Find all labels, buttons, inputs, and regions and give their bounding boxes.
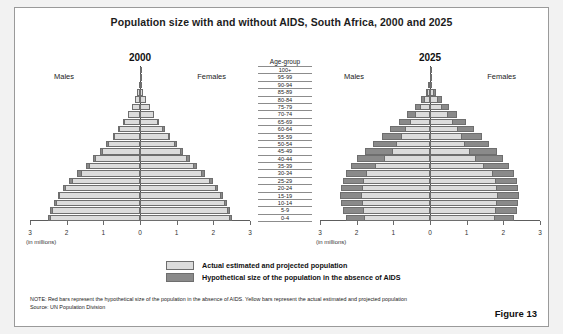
bar-males-actual: [132, 104, 140, 110]
pyramid-row: [320, 185, 540, 191]
pyramid-row: [320, 74, 540, 80]
bar-females-actual: [430, 207, 496, 213]
pyramid-row: [320, 119, 540, 125]
age-group-cell: 80-84: [258, 96, 312, 103]
age-group-list: 100+95-9990-9485-8980-8475-7970-7465-696…: [258, 66, 312, 222]
pyramid-row: [320, 111, 540, 117]
age-group-cell: 65-69: [258, 118, 312, 125]
pyramid-row: [320, 170, 540, 176]
bar-females-actual: [430, 104, 442, 110]
bar-males-actual: [364, 215, 430, 221]
pyramid-row: [320, 155, 540, 161]
page-title: Population size with and without AIDS, S…: [0, 16, 563, 28]
pyramid-row: [30, 148, 250, 154]
bar-females-actual: [140, 89, 143, 95]
x-axis-tick: [67, 221, 68, 225]
age-group-cell: 20-24: [258, 184, 312, 191]
pyramid-row: [320, 207, 540, 213]
pyramid-row: [30, 96, 250, 102]
bar-females-actual: [140, 170, 202, 176]
bar-females-actual: [430, 163, 484, 169]
footnote: NOTE: Red bars represent the hypothetica…: [30, 295, 500, 311]
legend-swatch-hypothetical-icon: [166, 273, 194, 282]
x-axis-tick: [213, 221, 214, 225]
age-group-cell: 10-14: [258, 199, 312, 206]
pyramid-row: [320, 141, 540, 147]
bar-males-actual: [362, 185, 430, 191]
bar-females-actual: [430, 141, 465, 147]
bar-females-actual: [140, 155, 187, 161]
bar-males-actual: [124, 119, 141, 125]
x-axis-tick: [177, 221, 178, 225]
pyramid-row: [320, 126, 540, 132]
age-group-cell: 40-44: [258, 155, 312, 162]
bar-males-actual: [401, 133, 430, 139]
x-axis-tick-label: 1: [386, 229, 400, 236]
bar-males-actual: [375, 163, 430, 169]
bar-females-actual: [430, 192, 498, 198]
pyramid-row: [320, 96, 540, 102]
legend-item-hypothetical: Hypothetical size of the population in t…: [166, 273, 406, 282]
x-axis-tick: [250, 221, 251, 225]
pyramid-row: [30, 74, 250, 80]
bar-males-actual: [89, 163, 140, 169]
pyramid-row: [30, 141, 250, 147]
x-axis-tick-label: 2: [60, 229, 74, 236]
x-axis-tick-label: 3: [243, 229, 257, 236]
age-group-cell: 75-79: [258, 103, 312, 110]
bar-females-actual: [430, 119, 453, 125]
x-axis-tick: [393, 221, 394, 225]
bar-females-actual: [140, 141, 175, 147]
bar-males-actual: [392, 148, 431, 154]
x-axis-tick-label: 0: [133, 229, 147, 236]
bar-males-actual: [363, 207, 430, 213]
bar-males-actual: [108, 141, 140, 147]
age-group-cell: 60-64: [258, 125, 312, 132]
pyramid-row: [30, 67, 250, 73]
age-group-cell: 25-29: [258, 177, 312, 184]
x-axis-tick: [357, 221, 358, 225]
x-axis-tick: [140, 221, 141, 225]
legend-item-actual: Actual estimated and projected populatio…: [166, 261, 406, 270]
age-group-cell: 85-89: [258, 88, 312, 95]
pyramid-row: [30, 89, 250, 95]
panel-year-label-2000: 2000: [22, 52, 258, 63]
bar-males-actual: [361, 192, 430, 198]
bar-females-actual: [430, 133, 462, 139]
bar-females-actual: [430, 155, 476, 161]
bar-males-actual: [415, 111, 430, 117]
bar-females-actual: [140, 163, 194, 169]
bar-females-actual: [140, 215, 230, 221]
legend-label-actual: Actual estimated and projected populatio…: [202, 261, 347, 270]
figure-container: Population size with and without AIDS, S…: [0, 0, 563, 334]
pyramid-row: [30, 185, 250, 191]
bar-females-actual: [140, 192, 221, 198]
bar-males-actual: [384, 155, 430, 161]
figure-label: Figure 13: [495, 308, 537, 319]
age-group-cell: 5-9: [258, 206, 312, 213]
x-axis-units-2025: (in millions): [316, 239, 346, 245]
bar-females-actual: [140, 67, 142, 73]
pyramid-row: [30, 82, 250, 88]
age-group-cell: 100+: [258, 66, 312, 73]
bar-females-actual: [430, 170, 493, 176]
bar-males-actual: [95, 155, 140, 161]
bar-males-actual: [102, 148, 141, 154]
bar-females-actual: [140, 74, 142, 80]
bar-males-actual: [405, 126, 430, 132]
x-axis-tick-label: 0: [423, 229, 437, 236]
age-group-cell: 35-39: [258, 162, 312, 169]
bar-males-actual: [56, 200, 140, 206]
age-group-cell: 55-59: [258, 133, 312, 140]
pyramid-row: [30, 126, 250, 132]
bar-females-actual: [140, 200, 225, 206]
bar-males-actual: [420, 104, 430, 110]
x-axis-tick: [467, 221, 468, 225]
bar-females-actual: [140, 104, 150, 110]
bar-males-actual: [363, 178, 430, 184]
pyramid-row: [30, 207, 250, 213]
bar-females-actual: [430, 89, 434, 95]
x-axis-units-2000: (in millions): [26, 239, 56, 245]
bar-females-actual: [140, 133, 169, 139]
bar-males-actual: [114, 133, 140, 139]
